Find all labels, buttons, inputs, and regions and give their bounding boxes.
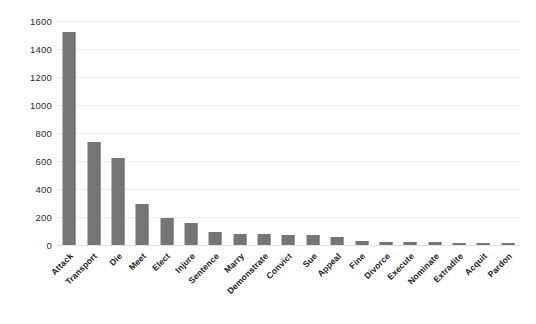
bar-slot: [423, 21, 447, 245]
x-axis: AttackTransportDieMeetElectInjureSentenc…: [57, 248, 520, 322]
bar[interactable]: [87, 142, 100, 245]
x-tick-slot: Sentence: [203, 248, 227, 322]
bar[interactable]: [63, 32, 76, 245]
plot-area: [57, 21, 520, 245]
x-tick-slot: Transport: [81, 248, 105, 322]
bar[interactable]: [282, 235, 295, 245]
bar[interactable]: [136, 204, 149, 245]
x-tick-slot: Demonstrate: [252, 248, 276, 322]
x-tick-label: Meet: [127, 251, 148, 272]
x-tick-slot: Acquit: [471, 248, 495, 322]
bar-slot: [179, 21, 203, 245]
bar-slot: [325, 21, 349, 245]
x-tick-slot: Convict: [276, 248, 300, 322]
bar[interactable]: [331, 237, 344, 245]
bar-slot: [349, 21, 373, 245]
x-tick-slot: Divorce: [374, 248, 398, 322]
y-tick-label: 0: [47, 240, 52, 251]
x-axis-line: [57, 245, 520, 246]
bar[interactable]: [185, 223, 198, 245]
x-tick-label: Elect: [151, 251, 173, 273]
screenshot-root: 02004006008001000120014001600 AttackTran…: [0, 0, 536, 324]
x-tick-label: Die: [107, 251, 124, 268]
bar-slot: [496, 21, 520, 245]
x-tick-slot: Pardon: [496, 248, 520, 322]
x-tick-slot: Sue: [301, 248, 325, 322]
x-tick-label: Fine: [348, 251, 368, 271]
bar[interactable]: [233, 234, 246, 245]
x-tick-slot: Elect: [154, 248, 178, 322]
bar-slot: [471, 21, 495, 245]
x-tick-slot: Injure: [179, 248, 203, 322]
bar[interactable]: [111, 158, 124, 245]
x-tick-slot: Nominate: [423, 248, 447, 322]
x-tick-slot: Fine: [349, 248, 373, 322]
bar-slot: [203, 21, 227, 245]
bar-chart-figure: 02004006008001000120014001600 AttackTran…: [0, 0, 536, 324]
bar-slot: [106, 21, 130, 245]
y-axis: 02004006008001000120014001600: [0, 21, 52, 245]
bar[interactable]: [306, 235, 319, 245]
y-tick-label: 1400: [30, 44, 52, 55]
y-tick-label: 400: [36, 184, 52, 195]
x-tick-slot: Meet: [130, 248, 154, 322]
x-tick-slot: Extradite: [447, 248, 471, 322]
bar-slot: [252, 21, 276, 245]
y-tick-label: 1200: [30, 72, 52, 83]
y-tick-label: 200: [36, 212, 52, 223]
bar-slot: [276, 21, 300, 245]
bar-slot: [154, 21, 178, 245]
bar-slot: [398, 21, 422, 245]
x-tick-slot: Execute: [398, 248, 422, 322]
bar-slot: [81, 21, 105, 245]
bar-slot: [130, 21, 154, 245]
bar[interactable]: [258, 234, 271, 245]
y-tick-label: 1000: [30, 100, 52, 111]
y-tick-label: 1600: [30, 16, 52, 27]
x-tick-slot: Die: [106, 248, 130, 322]
bar[interactable]: [160, 218, 173, 245]
y-tick-label: 600: [36, 156, 52, 167]
x-tick-slot: Appeal: [325, 248, 349, 322]
bar-slot: [301, 21, 325, 245]
bar-slot: [447, 21, 471, 245]
x-tick-label: Sue: [300, 251, 318, 269]
bar-slot: [228, 21, 252, 245]
bar[interactable]: [209, 232, 222, 245]
bar-slot: [374, 21, 398, 245]
bar-slot: [57, 21, 81, 245]
y-tick-label: 800: [36, 128, 52, 139]
